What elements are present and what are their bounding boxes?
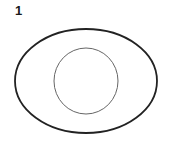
inner-circle xyxy=(54,48,118,114)
outer-ellipse xyxy=(15,29,157,133)
diagram-canvas xyxy=(0,0,169,147)
